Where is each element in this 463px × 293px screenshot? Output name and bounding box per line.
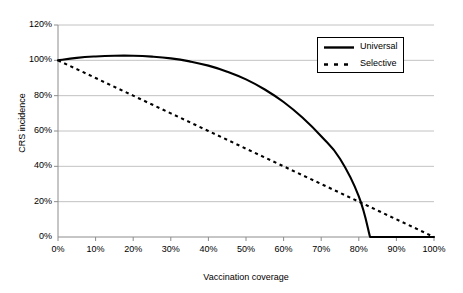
x-tick-label: 60% bbox=[264, 244, 304, 254]
legend-label-universal: Universal bbox=[360, 41, 398, 51]
x-tick-label: 40% bbox=[188, 244, 228, 254]
series-line-selective bbox=[58, 60, 434, 237]
y-tick-label: 0% bbox=[12, 231, 52, 241]
x-tick-label: 90% bbox=[376, 244, 416, 254]
series-line-universal bbox=[58, 56, 434, 237]
chart-container: 0%20%40%60%80%100%120% 0%10%20%30%40%50%… bbox=[0, 0, 463, 293]
x-tick-label: 10% bbox=[76, 244, 116, 254]
x-axis-title: Vaccination coverage bbox=[58, 272, 434, 282]
legend-item-selective: Selective bbox=[318, 55, 403, 73]
x-tick-label: 70% bbox=[301, 244, 341, 254]
y-tick-label: 120% bbox=[12, 19, 52, 29]
y-tick-label: 100% bbox=[12, 54, 52, 64]
x-tick-label: 30% bbox=[151, 244, 191, 254]
legend-swatch-solid bbox=[324, 46, 354, 49]
y-tick-label: 20% bbox=[12, 196, 52, 206]
x-tick-label: 20% bbox=[113, 244, 153, 254]
x-tick-label: 80% bbox=[339, 244, 379, 254]
x-tick-label: 100% bbox=[414, 244, 454, 254]
legend-item-universal: Universal bbox=[318, 38, 403, 56]
x-tick-label: 50% bbox=[226, 244, 266, 254]
legend-swatch-dashed bbox=[324, 63, 354, 66]
y-axis-title: CRS incidence bbox=[17, 73, 27, 173]
legend-label-selective: Selective bbox=[360, 58, 397, 68]
x-tick-label: 0% bbox=[38, 244, 78, 254]
chart-legend: Universal Selective bbox=[317, 37, 404, 73]
